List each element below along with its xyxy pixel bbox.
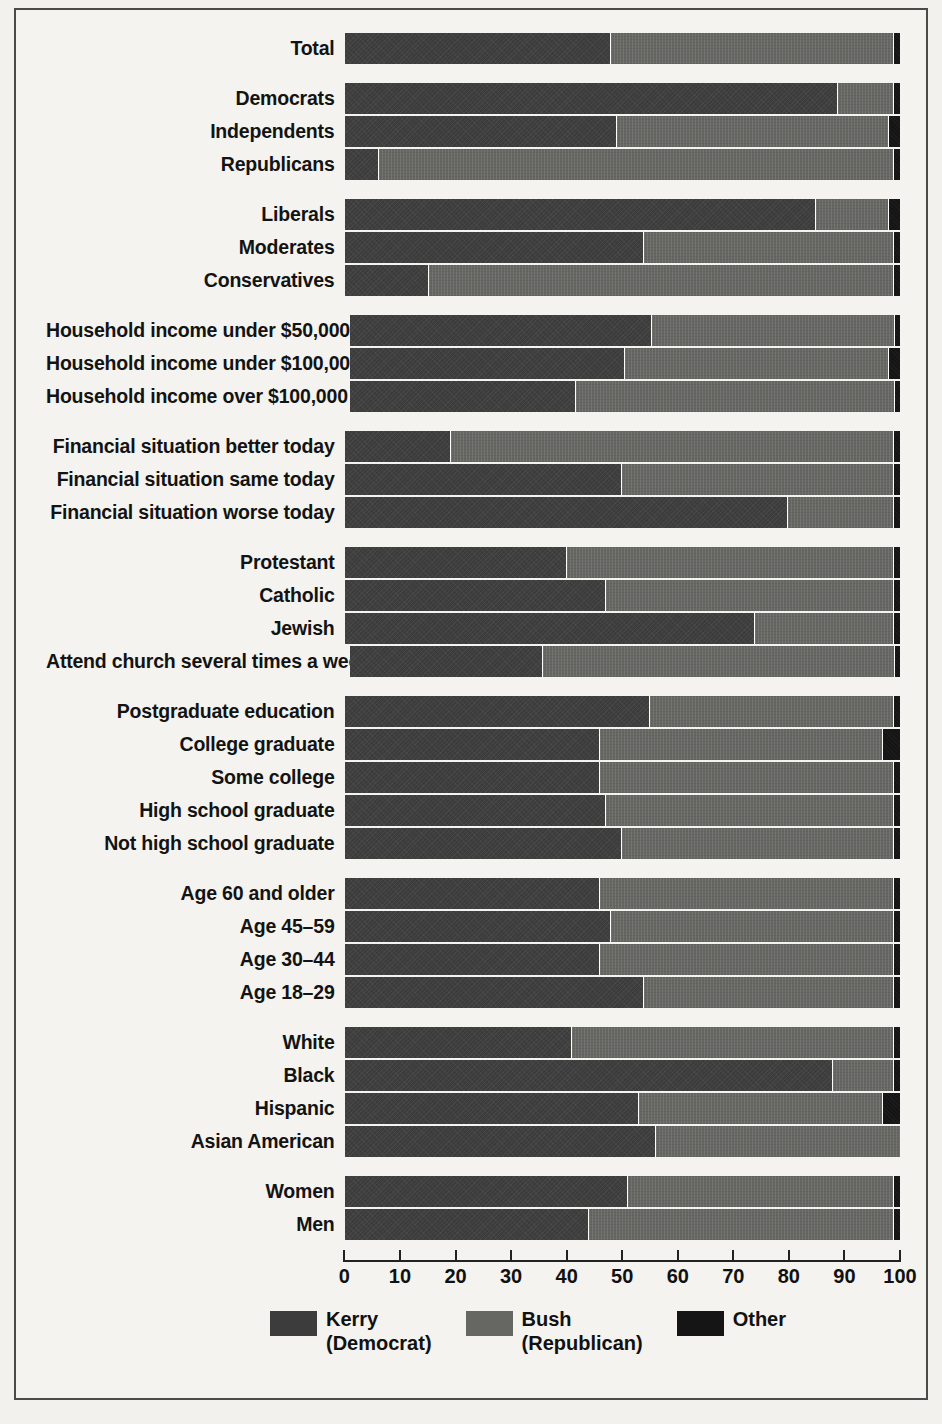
chart-row: Protestant [46,546,900,579]
bar-segment-other [894,33,900,64]
bar-segment-other [894,232,900,263]
bar-segment-other [894,497,900,528]
bar-segment-bush [622,828,894,859]
bar-group-finances: Financial situation better todayFinancia… [46,430,900,529]
bar-segment-kerry [345,1209,590,1240]
row-label: Attend church several times a week [46,652,350,672]
bar-group-party: DemocratsIndependentsRepublicans [46,82,900,181]
row-label: Financial situation worse today [46,503,345,523]
row-label: Democrats [46,89,345,109]
legend-item: Other [677,1308,786,1355]
axis-tick [843,1250,845,1262]
row-label: Postgraduate education [46,702,345,722]
axis-tick-label: 70 [722,1265,744,1288]
chart-row: Not high school graduate [46,827,900,860]
bar-segment-kerry [345,911,612,942]
chart-row: Democrats [46,82,900,115]
bar-segment-bush [816,199,889,230]
bar-segment-bush [628,1176,895,1207]
chart-row: Financial situation same today [46,463,900,496]
stacked-bar [345,1209,900,1240]
bar-group-education: Postgraduate educationCollege graduateSo… [46,695,900,860]
axis-tick-label: 30 [500,1265,522,1288]
legend-label: Bush(Republican) [522,1308,643,1355]
bar-segment-bush [833,1060,895,1091]
bar-segment-bush [543,646,895,677]
axis-tick [899,1250,901,1262]
bar-segment-bush [606,795,895,826]
row-label: Some college [46,768,345,788]
axis-tick [455,1250,457,1262]
bar-group-gender: WomenMen [46,1175,900,1241]
chart-row: Household income under $50,000 [46,314,900,347]
stacked-bar [345,613,900,644]
row-label: College graduate [46,735,345,755]
bar-segment-kerry [345,116,617,147]
row-label: Household income under $100,000 [46,354,350,374]
bar-track [345,1059,900,1092]
bar-track [345,82,900,115]
bar-segment-kerry [345,33,612,64]
stacked-bar [345,729,900,760]
bar-segment-kerry [345,944,601,975]
bar-segment-bush [652,315,894,346]
bar-track [345,430,900,463]
bar-segment-kerry [345,83,839,114]
row-label: Jewish [46,619,345,639]
bar-track [345,761,900,794]
legend-swatch [466,1311,513,1336]
bar-segment-bush [639,1093,884,1124]
bar-group-age: Age 60 and olderAge 45–59Age 30–44Age 18… [46,877,900,1009]
bar-segment-bush [838,83,894,114]
stacked-bar [345,149,900,180]
legend-item: Bush(Republican) [466,1308,643,1355]
bar-segment-kerry [350,315,652,346]
bar-track [345,794,900,827]
bar-segment-other [894,149,900,180]
bar-segment-bush [650,696,895,727]
row-label: Age 30–44 [46,950,345,970]
x-axis: 0102030405060708090100 [344,1248,900,1294]
bar-track [345,1125,900,1158]
bar-segment-kerry [345,431,451,462]
bar-segment-other [894,431,900,462]
bar-segment-kerry [345,497,789,528]
row-label: Conservatives [46,271,345,291]
axis-tick [732,1250,734,1262]
stacked-bar [345,464,900,495]
chart-row: Household income under $100,000 [46,347,900,380]
bar-track [350,380,900,413]
x-axis-row: 0102030405060708090100 [46,1248,900,1294]
bar-segment-other [894,795,900,826]
bar-segment-other [889,116,900,147]
stacked-bar [345,431,900,462]
chart-row: Conservatives [46,264,900,297]
axis-left-pad [46,1248,344,1294]
chart-row: Attend church several times a week [46,645,900,678]
bar-group-religion: ProtestantCatholicJewishAttend church se… [46,546,900,678]
chart-row: Household income over $100,000 [46,380,900,413]
bar-group-income: Household income under $50,000Household … [46,314,900,413]
stacked-bar [345,1176,900,1207]
row-label: Age 18–29 [46,983,345,1003]
axis-tick-label: 40 [556,1265,578,1288]
row-label: Hispanic [46,1099,345,1119]
bar-segment-other [894,911,900,942]
bar-track [345,231,900,264]
bar-track [345,976,900,1009]
bar-segment-kerry [345,613,756,644]
bar-segment-kerry [345,1060,833,1091]
bar-segment-kerry [345,1027,573,1058]
bar-segment-kerry [345,580,606,611]
axis-tick-label: 60 [667,1265,689,1288]
chart-page: TotalDemocratsIndependentsRepublicansLib… [0,0,942,1424]
legend-label: Other [733,1308,786,1332]
bar-segment-bush [617,116,889,147]
bar-segment-other [894,696,900,727]
row-label: Moderates [46,238,345,258]
bar-segment-bush [567,547,895,578]
stacked-bar [345,547,900,578]
bar-segment-bush [451,431,895,462]
axis-tick [510,1250,512,1262]
stacked-bar [345,696,900,727]
